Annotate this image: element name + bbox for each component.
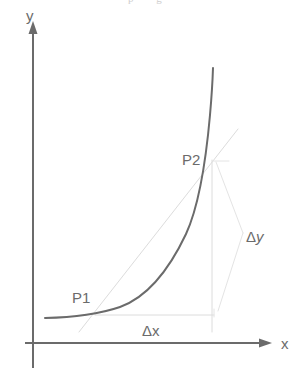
y-axis-label: y [26,8,34,23]
delta-y-bracket-lower [218,233,243,311]
point-label-p2: P2 [182,152,200,167]
x-axis-label: x [281,336,289,351]
delta-y-label: Δy [246,229,264,244]
delta-y-variable: y [256,228,264,245]
construction-lines [79,129,243,332]
delta-x-label: Δx [142,323,160,338]
secant-line [79,129,238,332]
diagram-canvas [0,0,304,375]
point-label-p1: P1 [72,290,90,305]
x-axis-arrowhead [259,339,272,348]
delta-y-symbol: Δ [246,228,256,245]
derivative-diagram: p g y x P1 P2 Δx Δy [0,0,304,375]
axes-group [25,21,272,368]
delta-y-bracket-upper [216,162,243,233]
